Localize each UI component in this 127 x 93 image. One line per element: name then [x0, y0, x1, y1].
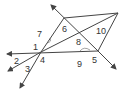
angle-arc-9	[80, 48, 90, 51]
angle-label-5: 5	[92, 55, 97, 65]
angle-label-6: 6	[62, 24, 67, 34]
ray-to-left	[7, 51, 98, 54]
ray-to-lower-right	[98, 51, 116, 69]
side-left	[41, 18, 64, 52]
angle-label-9: 9	[77, 59, 82, 69]
angle-label-1: 1	[33, 42, 38, 52]
geometry-diagram: 1 2 3 4 5 6 7 8 9 10	[0, 0, 127, 93]
ray-to-upper-left	[51, 5, 98, 51]
angle-label-10: 10	[96, 26, 106, 36]
angle-label-4: 4	[40, 55, 45, 65]
angle-label-7: 7	[37, 29, 42, 39]
angle-label-2: 2	[14, 56, 19, 66]
angle-label-8: 8	[76, 37, 81, 47]
ray-lower-left-2	[20, 52, 41, 88]
angle-label-3: 3	[25, 64, 30, 74]
